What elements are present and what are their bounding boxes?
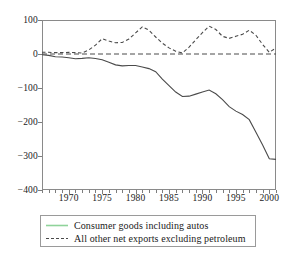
series-line-other-net-exports	[42, 26, 276, 53]
legend-item-other-net-exports: All other net exports excluding petroleu…	[46, 232, 250, 245]
x-axis-tick-mark	[82, 190, 83, 193]
series-line-consumer-goods	[42, 55, 276, 160]
x-axis-tick-mark	[256, 190, 257, 193]
x-axis-tick-label: 1970	[59, 193, 79, 203]
y-axis-tick-mark	[38, 88, 42, 89]
y-axis-tick-mark	[38, 20, 42, 21]
x-axis-tick-mark	[236, 190, 237, 194]
x-axis-labels: 1970197519801985199019952000	[0, 193, 291, 207]
legend-swatch-solid-icon	[46, 222, 68, 229]
x-axis-tick-mark	[196, 190, 197, 193]
x-axis-tick-label: 2000	[259, 193, 279, 203]
chart-root: 1000−100−200−300−400 1970197519801985199…	[0, 0, 291, 255]
chart-lines	[42, 20, 276, 190]
x-axis-tick-mark	[243, 190, 244, 193]
y-axis-tick-label: −300	[18, 151, 38, 161]
x-axis-tick-mark	[102, 190, 103, 194]
plot-area	[42, 20, 276, 190]
x-axis-tick-mark	[276, 190, 277, 193]
x-axis-tick-mark	[75, 190, 76, 193]
x-axis-tick-mark	[55, 190, 56, 193]
x-axis-tick-mark	[169, 190, 170, 194]
legend-swatch-dashed-icon	[46, 235, 68, 242]
y-axis-tick-label: −200	[18, 117, 38, 127]
x-axis-tick-label: 1990	[193, 193, 213, 203]
y-axis-tick-mark	[38, 156, 42, 157]
x-axis-tick-mark	[136, 190, 137, 194]
x-axis-tick-mark	[216, 190, 217, 193]
x-axis-tick-mark	[249, 190, 250, 193]
x-axis-tick-mark	[122, 190, 123, 193]
x-axis-tick-mark	[263, 190, 264, 193]
x-axis-tick-mark	[142, 190, 143, 193]
y-axis-tick-mark	[38, 122, 42, 123]
chart-legend: Consumer goods including autos All other…	[40, 215, 256, 247]
x-axis-tick-mark	[229, 190, 230, 193]
y-axis-tick-label: 100	[23, 15, 38, 25]
x-axis-tick-label: 1975	[92, 193, 112, 203]
x-axis-tick-mark	[176, 190, 177, 193]
y-axis-labels: 1000−100−200−300−400	[0, 0, 38, 255]
x-axis-tick-mark	[89, 190, 90, 193]
x-axis-tick-mark	[129, 190, 130, 193]
x-axis-tick-mark	[202, 190, 203, 194]
x-axis-tick-mark	[189, 190, 190, 193]
x-axis-tick-mark	[162, 190, 163, 193]
x-axis-tick-mark	[149, 190, 150, 193]
legend-label-other-net-exports: All other net exports excluding petroleu…	[74, 232, 246, 245]
x-axis-tick-label: 1995	[226, 193, 246, 203]
x-axis-tick-mark	[269, 190, 270, 194]
x-axis-tick-mark	[49, 190, 50, 193]
x-axis-tick-mark	[69, 190, 70, 194]
x-axis-tick-label: 1985	[159, 193, 179, 203]
x-axis-tick-mark	[209, 190, 210, 193]
x-axis-tick-mark	[156, 190, 157, 193]
x-axis-tick-mark	[95, 190, 96, 193]
y-axis-tick-mark	[38, 54, 42, 55]
x-axis-tick-mark	[116, 190, 117, 193]
x-axis-tick-label: 1980	[126, 193, 146, 203]
y-axis-tick-label: −100	[18, 83, 38, 93]
x-axis-tick-mark	[62, 190, 63, 193]
legend-item-consumer-goods: Consumer goods including autos	[46, 219, 250, 232]
legend-label-consumer-goods: Consumer goods including autos	[74, 219, 208, 232]
x-axis-tick-mark	[223, 190, 224, 193]
x-axis-tick-mark	[182, 190, 183, 193]
x-axis-tick-mark	[109, 190, 110, 193]
x-axis-tick-mark	[42, 190, 43, 193]
